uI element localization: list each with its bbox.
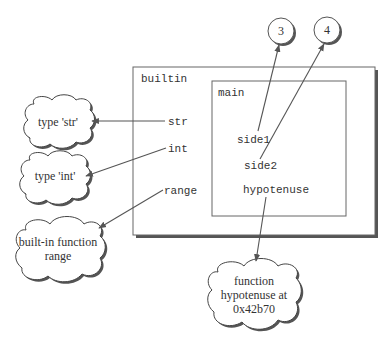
name-str: str: [168, 116, 188, 128]
cloud-type-str: type 'str': [24, 95, 97, 151]
cloud-hyp-line2: hypotenuse at: [221, 288, 288, 302]
namespace-diagram: builtin main str int range side1 side2 h…: [0, 0, 392, 344]
object-circle-4: 4: [314, 17, 342, 45]
cloud-hyp-line3: 0x42b70: [233, 302, 275, 316]
cloud-builtin-range: built-in function range: [16, 217, 108, 284]
circle-4-value: 4: [324, 23, 330, 37]
cloud-type-int: type 'int': [20, 151, 93, 207]
cloud-function-hypotenuse: function hypotenuse at 0x42b70: [208, 259, 304, 332]
cloud-str-label: type 'str': [38, 115, 78, 129]
builtin-label: builtin: [141, 73, 187, 85]
cloud-range-line1: built-in function: [19, 235, 97, 249]
name-int: int: [168, 143, 188, 155]
cloud-range-line2: range: [45, 249, 72, 263]
cloud-int-label: type 'int': [35, 169, 76, 183]
main-label: main: [218, 87, 244, 99]
name-hypotenuse: hypotenuse: [243, 184, 309, 196]
name-side2: side2: [244, 160, 277, 172]
name-range: range: [164, 185, 197, 197]
name-side1: side1: [237, 134, 270, 146]
cloud-hyp-line1: function: [234, 274, 274, 288]
circle-3-value: 3: [278, 24, 284, 38]
object-circle-3: 3: [268, 18, 296, 46]
